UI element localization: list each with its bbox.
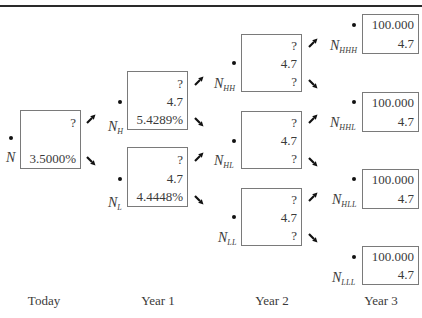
node-dot-nhhl bbox=[352, 100, 356, 104]
down-right-arrow-icon bbox=[308, 233, 318, 243]
node-rate: 4.4448% bbox=[136, 189, 183, 204]
node-value: 100.000 bbox=[372, 95, 414, 110]
node-label-nh: NH bbox=[108, 119, 123, 140]
period-label-year3: Year 3 bbox=[341, 293, 421, 309]
up-right-arrow-icon bbox=[194, 152, 204, 162]
node-value: ? bbox=[177, 76, 183, 91]
top-rule bbox=[0, 5, 422, 7]
node-coupon: 4.7 bbox=[167, 94, 183, 109]
node-value: ? bbox=[291, 115, 297, 130]
node-value: ? bbox=[177, 152, 183, 167]
node-value: 100.000 bbox=[372, 249, 414, 264]
node-coupon: 4.7 bbox=[281, 56, 297, 71]
node-box-nhll: 100.000 4.7 bbox=[362, 169, 419, 209]
node-rate: ? bbox=[291, 151, 297, 166]
node-box-nlll: 100.000 4.7 bbox=[362, 246, 419, 285]
period-label-year1: Year 1 bbox=[118, 293, 198, 309]
node-box-nll: ? 4.7 ? bbox=[241, 188, 302, 246]
up-right-arrow-icon bbox=[308, 114, 318, 124]
up-right-arrow-icon bbox=[308, 38, 318, 48]
node-label-nhll: NHLL bbox=[332, 192, 357, 213]
node-label-nhl: NHL bbox=[214, 153, 234, 174]
node-coupon: 4.7 bbox=[398, 36, 414, 51]
node-rate: ? bbox=[291, 228, 297, 243]
node-label-nhh: NHH bbox=[214, 76, 235, 97]
node-coupon: 4.7 bbox=[281, 133, 297, 148]
up-right-arrow-icon bbox=[194, 76, 204, 86]
node-box-nl: ? 4.7 4.4448% bbox=[127, 147, 188, 207]
node-dot-nll bbox=[232, 215, 236, 219]
node-label-n: N bbox=[6, 150, 15, 171]
node-coupon: 4.7 bbox=[167, 171, 183, 186]
node-value: ? bbox=[291, 192, 297, 207]
node-box-n: ? 3.5000% bbox=[20, 110, 81, 169]
node-box-nhl: ? 4.7 ? bbox=[241, 111, 302, 169]
node-dot-nhhh bbox=[352, 23, 356, 27]
node-box-nh: ? 4.7 5.4289% bbox=[127, 71, 188, 130]
down-right-arrow-icon bbox=[308, 157, 318, 167]
period-label-today: Today bbox=[4, 293, 84, 309]
node-coupon: 4.7 bbox=[281, 210, 297, 225]
node-dot-nl bbox=[118, 177, 122, 181]
node-label-nhhh: NHHH bbox=[330, 38, 357, 59]
node-coupon: 4.7 bbox=[398, 114, 414, 129]
node-value: 100.000 bbox=[372, 17, 414, 32]
node-label-nhhl: NHHL bbox=[330, 115, 356, 136]
down-right-arrow-icon bbox=[194, 117, 204, 127]
down-right-arrow-icon bbox=[194, 195, 204, 205]
node-rate: 5.4289% bbox=[136, 112, 183, 127]
node-box-nhhh: 100.000 4.7 bbox=[362, 14, 419, 54]
node-label-nll: NLL bbox=[218, 230, 237, 251]
up-right-arrow-icon bbox=[86, 114, 96, 124]
node-rate: 3.5000% bbox=[29, 151, 76, 166]
up-right-arrow-icon bbox=[308, 192, 318, 202]
node-dot-nhl bbox=[232, 139, 236, 143]
node-value: ? bbox=[291, 38, 297, 53]
node-value: ? bbox=[70, 115, 76, 130]
node-dot-n bbox=[9, 136, 13, 140]
node-label-nlll: NLLL bbox=[332, 270, 355, 291]
node-box-nhh: ? 4.7 ? bbox=[241, 34, 302, 92]
node-dot-nh bbox=[118, 100, 122, 104]
node-label-nl: NL bbox=[108, 195, 122, 216]
node-dot-nhll bbox=[352, 177, 356, 181]
period-label-year2: Year 2 bbox=[232, 293, 312, 309]
node-rate: ? bbox=[291, 74, 297, 89]
down-right-arrow-icon bbox=[86, 156, 96, 166]
node-value: 100.000 bbox=[372, 172, 414, 187]
node-coupon: 4.7 bbox=[398, 267, 414, 282]
node-dot-nlll bbox=[352, 255, 356, 259]
node-box-nhhl: 100.000 4.7 bbox=[362, 92, 419, 132]
node-coupon: 4.7 bbox=[398, 191, 414, 206]
down-right-arrow-icon bbox=[308, 79, 318, 89]
node-dot-nhh bbox=[232, 61, 236, 65]
